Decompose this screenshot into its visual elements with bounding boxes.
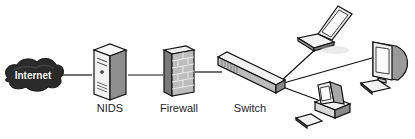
firewall-label: Firewall [160, 102, 198, 114]
laptop-icon [298, 6, 352, 54]
edge-switch-desktop [280, 86, 318, 100]
edge-switch-laptop [280, 47, 318, 82]
crt-workstation-icon [361, 42, 408, 94]
edge-switch-workstation [280, 58, 372, 84]
firewall-brick-icon [164, 46, 194, 96]
switch-icon [218, 52, 285, 93]
desktop-pc-icon [296, 82, 350, 128]
internet-label: Internet [15, 70, 52, 81]
nids-label: NIDS [97, 102, 123, 114]
switch-label: Switch [234, 102, 266, 114]
nids-server-icon [94, 44, 126, 100]
network-diagram: Internet NIDS Firewall Switch [0, 0, 415, 139]
